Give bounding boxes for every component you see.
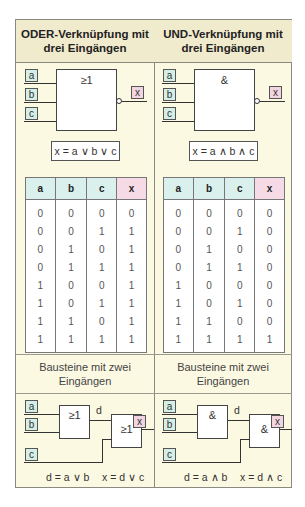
wire-b bbox=[162, 432, 198, 433]
cell: 0 bbox=[225, 312, 255, 330]
wire-c-to-gate bbox=[240, 439, 250, 440]
table-row: 1111 bbox=[26, 330, 147, 353]
cell: 1 bbox=[164, 330, 194, 353]
wire-x bbox=[280, 429, 292, 430]
intermediate-label-d: d bbox=[234, 404, 240, 416]
cell: 0 bbox=[225, 240, 255, 258]
col-header-c: c bbox=[87, 178, 117, 200]
or-gate: ≥1 bbox=[56, 69, 117, 131]
cell: 0 bbox=[117, 200, 147, 223]
cell: 0 bbox=[55, 200, 87, 223]
or-formula: x = a ∨ b ∨ c bbox=[51, 141, 120, 161]
cell: 1 bbox=[117, 276, 147, 294]
cell: 1 bbox=[117, 222, 147, 240]
cell: 1 bbox=[164, 312, 194, 330]
cell: 1 bbox=[193, 312, 225, 330]
cell: 0 bbox=[255, 276, 285, 294]
or-title: ODER-Verknüpfung mit drei Eingängen bbox=[16, 20, 154, 63]
cell: 1 bbox=[55, 312, 87, 330]
input-label-c: c bbox=[163, 107, 176, 120]
table-row: 1010 bbox=[164, 294, 285, 312]
cell: 0 bbox=[26, 222, 56, 240]
wire-d bbox=[228, 420, 250, 421]
wire-c bbox=[162, 121, 195, 122]
cell: 0 bbox=[164, 222, 194, 240]
table-row: 1000 bbox=[164, 276, 285, 294]
cell: 0 bbox=[193, 294, 225, 312]
input-label-a: a bbox=[163, 400, 176, 413]
col-header-b: b bbox=[55, 178, 87, 200]
or-column: ODER-Verknüpfung mit drei Eingängen a b … bbox=[16, 20, 155, 487]
col-header-a: a bbox=[164, 178, 194, 200]
cell: 0 bbox=[55, 276, 87, 294]
cell: 1 bbox=[117, 312, 147, 330]
table-row: 0111 bbox=[26, 258, 147, 276]
and-gate-1: & bbox=[197, 405, 228, 439]
wire-b bbox=[162, 102, 195, 103]
cell: 0 bbox=[193, 276, 225, 294]
wire-a bbox=[24, 83, 57, 84]
two-input-subheading: Bausteine mit zwei Eingängen bbox=[16, 355, 154, 393]
wire-x bbox=[260, 101, 285, 102]
cell: 0 bbox=[26, 200, 56, 223]
cell: 0 bbox=[255, 240, 285, 258]
output-label-x: x bbox=[271, 415, 284, 428]
cell: 0 bbox=[225, 200, 255, 223]
wire-c bbox=[162, 462, 241, 463]
cell: 1 bbox=[55, 258, 87, 276]
and-title: UND-Verknüpfung mit drei Eingängen bbox=[154, 20, 292, 63]
input-label-c: c bbox=[163, 448, 176, 461]
title-line-2: drei Eingängen bbox=[16, 41, 154, 55]
cell: 0 bbox=[255, 222, 285, 240]
wire-d bbox=[90, 420, 112, 421]
wire-a bbox=[162, 83, 195, 84]
wire-c-vertical bbox=[240, 439, 241, 463]
cell: 0 bbox=[164, 258, 194, 276]
table-row: 0010 bbox=[164, 222, 285, 240]
cell: 1 bbox=[164, 294, 194, 312]
cell: 1 bbox=[225, 294, 255, 312]
col-header-x: x bbox=[255, 178, 285, 200]
table-row: 0000 bbox=[26, 200, 147, 223]
two-input-subheading: Bausteine mit zwei Eingängen bbox=[154, 355, 292, 393]
input-label-b: b bbox=[163, 418, 176, 431]
subheading-line-2: Eingängen bbox=[154, 374, 292, 388]
title-line-1: UND-Verknüpfung mit bbox=[154, 27, 292, 41]
and-gate: & bbox=[194, 69, 255, 131]
cell: 0 bbox=[193, 222, 225, 240]
wire-x bbox=[122, 101, 147, 102]
cell: 1 bbox=[87, 222, 117, 240]
cell: 1 bbox=[26, 312, 56, 330]
cell: 1 bbox=[55, 240, 87, 258]
cell: 1 bbox=[225, 330, 255, 353]
cell: 0 bbox=[255, 258, 285, 276]
output-label-x: x bbox=[131, 86, 144, 99]
input-label-c: c bbox=[25, 107, 38, 120]
col-header-x: x bbox=[117, 178, 147, 200]
table-row: 0011 bbox=[26, 222, 147, 240]
intermediate-label-d: d bbox=[96, 404, 102, 416]
cell: 1 bbox=[87, 294, 117, 312]
and-column: UND-Verknüpfung mit drei Eingängen a b c… bbox=[154, 20, 292, 487]
wire-x bbox=[142, 429, 154, 430]
and-truth-table: a b c x 0000 0010 0100 0110 1000 1010 11… bbox=[163, 177, 285, 353]
equation-x: x = d ∨ c bbox=[102, 471, 144, 483]
cell: 0 bbox=[87, 276, 117, 294]
table-row: 0101 bbox=[26, 240, 147, 258]
logic-gates-figure: ODER-Verknüpfung mit drei Eingängen a b … bbox=[15, 19, 292, 488]
and-three-input-diagram: a b c & x x = a ∧ b ∧ c bbox=[154, 63, 292, 171]
cell: 0 bbox=[55, 294, 87, 312]
cell: 0 bbox=[26, 258, 56, 276]
wire-c-to-gate bbox=[102, 439, 112, 440]
cell: 0 bbox=[193, 200, 225, 223]
wire-b bbox=[24, 102, 57, 103]
cell: 0 bbox=[255, 294, 285, 312]
output-label-x: x bbox=[269, 86, 282, 99]
cell: 1 bbox=[87, 258, 117, 276]
cell: 1 bbox=[117, 240, 147, 258]
table-row: 1011 bbox=[26, 294, 147, 312]
input-label-a: a bbox=[25, 69, 38, 82]
table-row: 0110 bbox=[164, 258, 285, 276]
input-label-a: a bbox=[25, 400, 38, 413]
cell: 1 bbox=[117, 330, 147, 353]
